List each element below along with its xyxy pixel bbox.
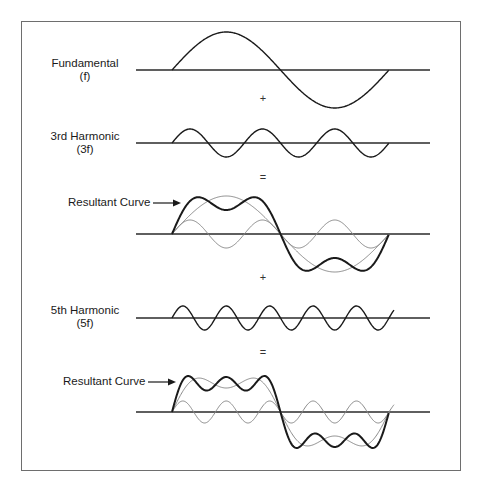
arrows-group [148,200,181,386]
waveform-canvas [0,0,481,492]
arrow-icon [153,200,181,207]
curves-group [172,32,394,448]
arrow-icon [148,379,176,386]
